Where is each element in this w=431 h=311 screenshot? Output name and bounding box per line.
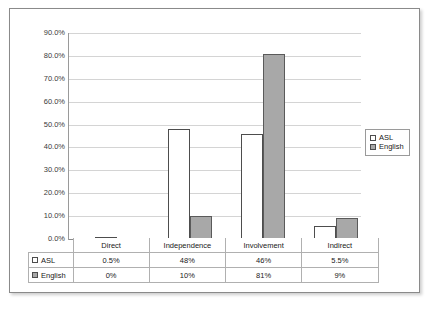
table-row-key: English: [29, 268, 74, 283]
chart-data-table: DirectIndependenceInvolvementIndirectASL…: [28, 238, 379, 283]
table-row: ASL0.5%48%46%5.5%: [29, 253, 379, 268]
table-row-key: ASL: [29, 253, 74, 268]
gray-square-swatch: [32, 272, 38, 278]
y-axis-tick-label: 20.0%: [17, 189, 65, 197]
y-axis-tick-label: 30.0%: [17, 166, 65, 174]
legend-item-english: English: [370, 142, 404, 151]
bar-asl-independence: [168, 129, 190, 239]
table-row-key-label: English: [41, 271, 66, 280]
table-column-header: Indirect: [302, 238, 378, 253]
table-column-header: Independence: [149, 238, 225, 253]
table-cell: 10%: [149, 268, 225, 283]
bar-group: [69, 33, 142, 239]
table-corner-cell: [29, 238, 74, 253]
y-axis-tick-label: 70.0%: [17, 75, 65, 83]
chart-legend: ASLEnglish: [365, 129, 410, 156]
table-cell: 81%: [226, 268, 302, 283]
table-cell: 46%: [226, 253, 302, 268]
white-square-swatch: [32, 257, 38, 263]
table-cell: 5.5%: [302, 253, 378, 268]
bar-asl-involvement: [241, 134, 263, 239]
table-row-key-label: ASL: [41, 256, 55, 265]
bar-english-indirect: [336, 218, 358, 239]
table-cell: 0%: [73, 268, 149, 283]
y-axis-tick-label: 80.0%: [17, 52, 65, 60]
table-row: English0%10%81%9%: [29, 268, 379, 283]
chart-frame: 90.0%80.0%70.0%60.0%50.0%40.0%30.0%20.0%…: [9, 8, 420, 293]
legend-item-label: English: [379, 142, 404, 151]
bar-group: [288, 33, 361, 239]
y-axis-tick-label: 60.0%: [17, 98, 65, 106]
table-column-header: Direct: [73, 238, 149, 253]
plot-area: [69, 33, 361, 239]
y-axis-tick-label: 10.0%: [17, 212, 65, 220]
bar-group: [215, 33, 288, 239]
bar-english-independence: [190, 216, 212, 239]
y-axis-tick-label: 40.0%: [17, 143, 65, 151]
legend-item-asl: ASL: [370, 133, 404, 142]
y-axis-line: [68, 33, 69, 240]
bar-english-involvement: [263, 54, 285, 239]
legend-item-label: ASL: [379, 133, 393, 142]
y-axis-tick-label: 90.0%: [17, 29, 65, 37]
table-cell: 48%: [149, 253, 225, 268]
table-header-row: DirectIndependenceInvolvementIndirect: [29, 238, 379, 253]
table-cell: 0.5%: [73, 253, 149, 268]
white-square-swatch: [370, 135, 376, 141]
table-cell: 9%: [302, 268, 378, 283]
bar-group: [142, 33, 215, 239]
y-axis-tick-label: 50.0%: [17, 121, 65, 129]
table-column-header: Involvement: [226, 238, 302, 253]
gray-square-swatch: [370, 144, 376, 150]
y-axis-labels: 90.0%80.0%70.0%60.0%50.0%40.0%30.0%20.0%…: [10, 33, 65, 240]
